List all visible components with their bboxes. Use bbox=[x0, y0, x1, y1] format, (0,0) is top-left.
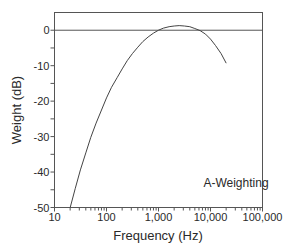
x-tick-label: 100,000 bbox=[243, 211, 283, 223]
y-tick-label: -50 bbox=[34, 202, 50, 214]
x-axis-tick-labels: 101001,00010,000100,000 bbox=[48, 211, 282, 223]
y-axis-title: Weight (dB) bbox=[9, 76, 24, 144]
y-axis-tick-labels: 0-10-20-30-40-50 bbox=[34, 24, 50, 213]
y-tick-label: -20 bbox=[34, 95, 50, 107]
y-tick-label: -40 bbox=[34, 166, 50, 178]
y-tick-label: -30 bbox=[34, 131, 50, 143]
y-tick-label: 0 bbox=[43, 24, 49, 36]
a-weighting-chart: 0-10-20-30-40-50 101001,00010,000100,000… bbox=[0, 0, 288, 247]
y-tick-label: -10 bbox=[34, 60, 50, 72]
x-axis-title: Frequency (Hz) bbox=[113, 228, 203, 243]
x-tick-label: 100 bbox=[97, 211, 115, 223]
series-annotation: A-Weighting bbox=[203, 176, 268, 190]
x-tick-label: 10,000 bbox=[194, 211, 228, 223]
y-axis-ticks bbox=[51, 30, 55, 207]
x-tick-label: 10 bbox=[48, 211, 60, 223]
x-tick-label: 1,000 bbox=[145, 211, 173, 223]
